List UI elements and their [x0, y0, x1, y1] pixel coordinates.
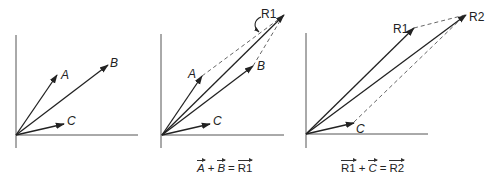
- label-c: C: [213, 114, 222, 128]
- vector-a-arrow: [16, 75, 57, 135]
- vector-a-arrow: [162, 76, 202, 135]
- dashed-c-to-r2: [354, 15, 465, 122]
- label-a: A: [187, 67, 196, 81]
- vector-r1-arrow: [306, 28, 414, 134]
- vector-r2-arrow: [306, 15, 466, 134]
- eq-result: R1: [238, 159, 253, 174]
- label-a: A: [60, 68, 69, 82]
- eq-equals: =: [377, 162, 390, 174]
- label-c: C: [356, 122, 365, 136]
- label-r1: R1: [261, 7, 277, 21]
- label-b: B: [257, 59, 265, 73]
- vector-r1-arrow: [162, 15, 284, 135]
- eq-term1: R1: [341, 159, 356, 174]
- eq-term2: C: [368, 159, 376, 174]
- panel-3: R1 C R2: [306, 10, 485, 148]
- eq-plus: +: [205, 162, 218, 174]
- eq-term1: A: [197, 159, 205, 174]
- label-r1: R1: [393, 22, 409, 36]
- eq-plus: +: [356, 162, 369, 174]
- panel-2: A B C R1: [161, 7, 284, 148]
- eq-result: R2: [389, 159, 404, 174]
- equation-r1-plus-c: R1+C=R2: [341, 159, 404, 174]
- panel-1: A B C: [16, 35, 138, 148]
- label-b: B: [110, 56, 118, 70]
- equation-a-plus-b: A+B=R1: [197, 159, 252, 174]
- label-r2: R2: [469, 10, 485, 24]
- dashed-a-to-r1: [202, 16, 283, 76]
- eq-term2: B: [217, 159, 225, 174]
- vector-addition-diagram: A B C A B C R1 R1 C R2: [0, 0, 495, 183]
- label-c: C: [67, 114, 76, 128]
- eq-equals: =: [225, 162, 238, 174]
